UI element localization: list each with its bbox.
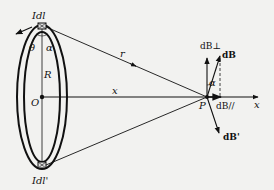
- label-center-o: O: [31, 97, 39, 108]
- label-dB-prime: dB': [223, 132, 240, 142]
- label-idl: Idl: [31, 10, 46, 21]
- label-x-distance: x: [112, 85, 118, 96]
- r-arrow: [130, 64, 136, 67]
- label-theta: θ: [29, 42, 35, 53]
- label-r: r: [120, 48, 126, 59]
- loop-field-diagram: Idl Idl' θ α R O r x P x dB⊥ dB α dB// d…: [0, 0, 274, 190]
- label-p: P: [198, 100, 206, 111]
- label-dB-perp: dB⊥: [200, 41, 221, 51]
- label-alpha-p: α: [209, 77, 216, 88]
- label-dB: dB: [222, 50, 236, 60]
- r-prime-line: [46, 97, 207, 165]
- label-r-radius: R: [43, 69, 52, 80]
- label-alpha-ring: α: [46, 42, 53, 53]
- label-x-axis: x: [254, 99, 260, 110]
- label-idl-prime: Idl': [31, 175, 48, 186]
- label-dB-parallel: dB//: [216, 101, 235, 111]
- r-line: [46, 27, 207, 97]
